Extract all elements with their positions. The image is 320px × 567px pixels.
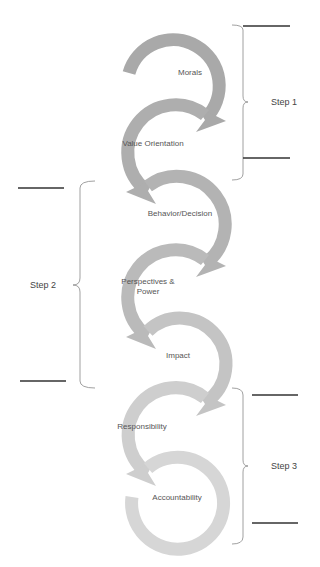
node-label-impact: Impact bbox=[166, 351, 190, 361]
arc-perspectives-power bbox=[126, 250, 205, 349]
node-label-perspectives-power: Perspectives & Power bbox=[121, 277, 174, 298]
brace-step-3 bbox=[232, 388, 248, 544]
node-label-responsibility: Responsibility bbox=[117, 422, 166, 432]
step-3-label: Step 3 bbox=[271, 461, 297, 471]
node-label-value-orientation: Value Orientation bbox=[122, 139, 183, 149]
node-label-morals: Morals bbox=[178, 68, 202, 78]
brace-step-2 bbox=[73, 181, 95, 388]
node-label-behavior-decision: Behavior/Decision bbox=[148, 209, 212, 219]
step-2-label: Step 2 bbox=[30, 280, 56, 290]
brace-step-1 bbox=[232, 25, 248, 180]
arc-impact bbox=[148, 318, 226, 416]
step-1-label: Step 1 bbox=[271, 97, 297, 107]
node-label-accountability: Accountability bbox=[152, 493, 201, 503]
arc-responsibility bbox=[126, 388, 205, 486]
arc-behavior-decision bbox=[148, 176, 226, 277]
